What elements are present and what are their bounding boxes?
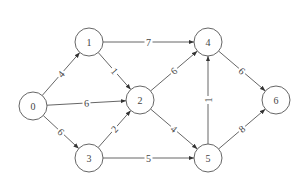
edge-0-1: 4 bbox=[42, 53, 80, 96]
node-label: 4 bbox=[206, 37, 211, 48]
graph-diagram: 466172564168 0123456 bbox=[0, 0, 307, 182]
edge-0-3: 6 bbox=[43, 116, 78, 149]
edge-3-2: 2 bbox=[98, 111, 131, 148]
node-1: 1 bbox=[75, 28, 103, 56]
node-label: 6 bbox=[274, 95, 279, 106]
edge-5-6: 8 bbox=[219, 109, 266, 149]
node-0: 0 bbox=[19, 92, 47, 120]
node-2: 2 bbox=[126, 86, 154, 114]
edge-0-2: 6 bbox=[47, 97, 126, 108]
edge-1-4: 7 bbox=[103, 37, 194, 48]
edge-2-5: 4 bbox=[151, 109, 198, 149]
node-label: 0 bbox=[31, 101, 36, 112]
node-label: 2 bbox=[138, 95, 143, 106]
node-5: 5 bbox=[194, 144, 222, 172]
node-label: 1 bbox=[87, 37, 92, 48]
edge-weight-label: 5 bbox=[146, 153, 151, 164]
edge-4-6: 6 bbox=[219, 51, 266, 91]
edge-weight-label: 1 bbox=[203, 98, 214, 103]
nodes-layer: 0123456 bbox=[19, 28, 290, 172]
edge-2-4: 6 bbox=[151, 51, 198, 91]
edge-weight-label: 7 bbox=[146, 37, 151, 48]
node-4: 4 bbox=[194, 28, 222, 56]
node-label: 5 bbox=[206, 153, 211, 164]
edge-weight-label: 6 bbox=[84, 97, 90, 108]
edge-3-5: 5 bbox=[103, 153, 194, 164]
node-3: 3 bbox=[75, 144, 103, 172]
edge-1-2: 1 bbox=[98, 53, 131, 90]
node-6: 6 bbox=[262, 86, 290, 114]
edge-5-4: 1 bbox=[203, 56, 214, 144]
node-label: 3 bbox=[87, 153, 92, 164]
